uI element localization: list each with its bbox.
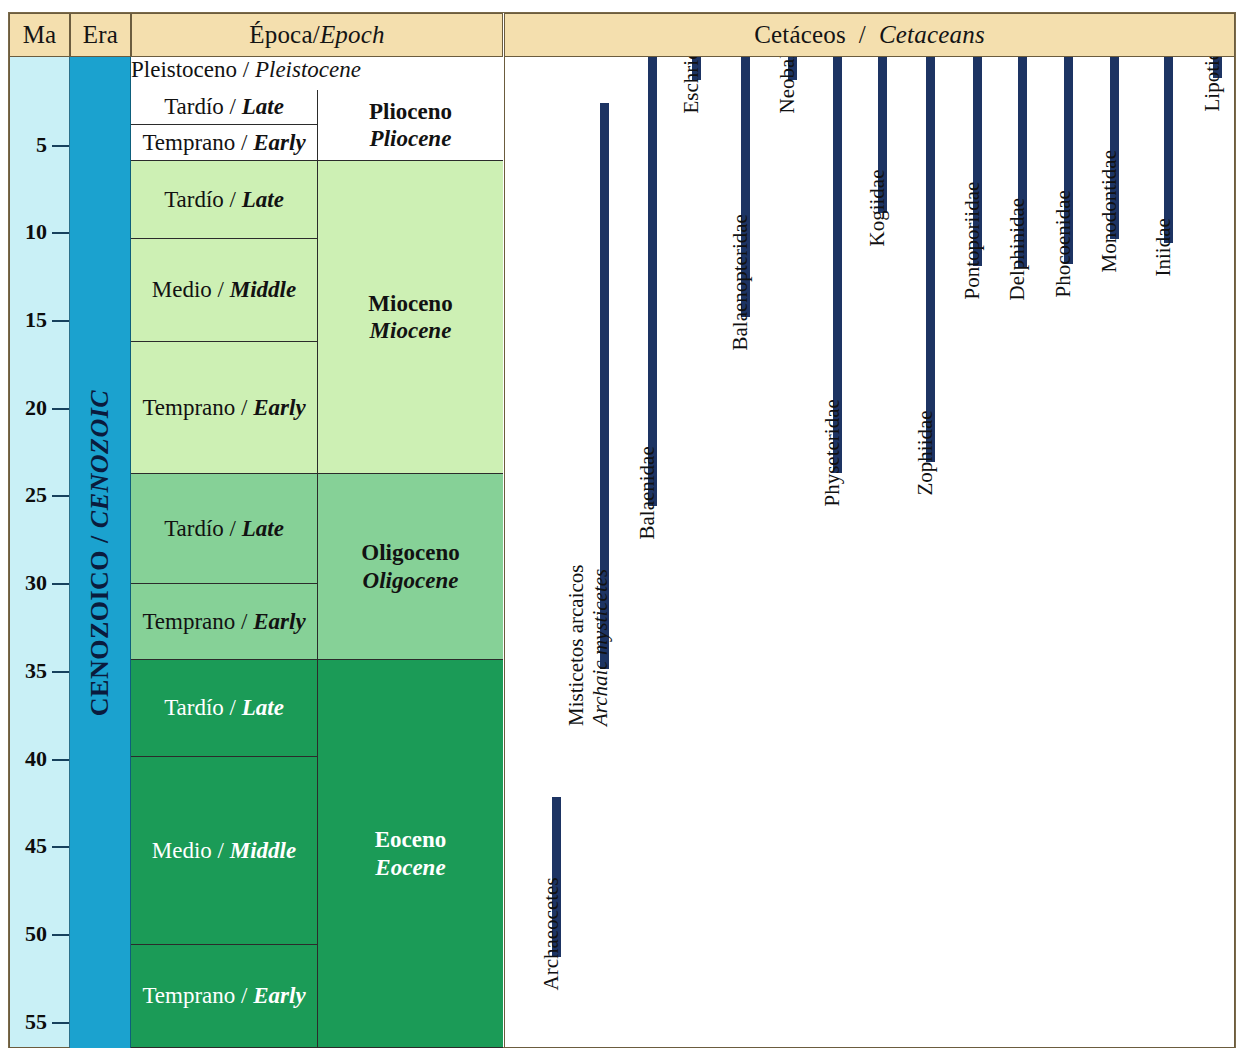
epoch-name-en: Oligocene <box>363 568 459 593</box>
ma-axis-column: 510152025303540455055 <box>9 57 70 1048</box>
taxon-name-es: Misticetos arcaicos <box>564 565 588 727</box>
range-bar-label: Lipotidae <box>1201 57 1225 112</box>
ma-tick-label: 30 <box>25 570 47 596</box>
range-bar <box>926 57 935 462</box>
range-bar <box>1164 57 1173 243</box>
ma-tick <box>52 1022 69 1024</box>
subepoch-name-en: Late <box>242 516 284 541</box>
ma-tick-label: 40 <box>25 746 47 772</box>
taxon-name-es: Iniidae <box>1151 218 1175 276</box>
taxon-name-es: Physeteridae <box>820 399 844 506</box>
subepoch-name-es: Temprano <box>142 130 235 155</box>
subepoch-name-es: Tardío <box>164 94 224 119</box>
taxon-name-es: Archaeocetes <box>539 877 563 990</box>
ma-tick-label: 10 <box>25 219 47 245</box>
ma-tick <box>52 408 69 410</box>
subepoch-name-en: Late <box>242 94 284 119</box>
range-bar <box>648 57 657 506</box>
subepoch-cell: Medio / Middle <box>131 239 317 342</box>
header-era: Era <box>70 13 131 57</box>
header-era-label: Era <box>83 21 118 49</box>
epoch-name-en: Miocene <box>370 318 452 343</box>
subepoch-name-en: Early <box>253 983 305 1008</box>
subepoch-cell: Temprano / Early <box>131 125 317 161</box>
taxon-name-es: Kogiidae <box>865 170 889 247</box>
subepoch-cell: Tardío / Late <box>131 90 317 125</box>
subepoch-name-en: Early <box>253 609 305 634</box>
era-column: CENOZOICO / CENOZOIC <box>70 57 131 1048</box>
epoch-column: PliocenoPlioceneMiocenoMioceneOligocenoO… <box>131 57 503 1048</box>
ma-tick <box>52 846 69 848</box>
subepoch-name-en: Late <box>242 187 284 212</box>
subepoch-name-es: Tardío <box>164 695 224 720</box>
header-epoch: Época / Epoch <box>131 13 503 57</box>
subepoch-cell: Tardío / Late <box>131 161 317 239</box>
cetacean-ranges-panel: ArchaeocetesMisticetos arcaicosArchaic m… <box>504 57 1235 1048</box>
subepoch-name-es: Temprano <box>142 609 235 634</box>
ma-tick-label: 20 <box>25 395 47 421</box>
epoch-name-es: Pleistoceno <box>131 57 237 82</box>
subepoch-name-es: Tardío <box>164 516 224 541</box>
header-cetaceans-es: Cetáceos <box>754 21 846 49</box>
epoch-name-en: Pliocene <box>370 126 452 151</box>
ma-tick-label: 50 <box>25 921 47 947</box>
epoch-name-en: Pleistocene <box>255 57 361 82</box>
ma-tick <box>52 934 69 936</box>
range-bar-label: Kogiidae <box>866 170 890 247</box>
ma-tick-label: 35 <box>25 658 47 684</box>
subepoch-cell: Temprano / Early <box>131 584 317 660</box>
subepoch-cell: Temprano / Early <box>131 342 317 474</box>
taxon-name-es: Neobalaenidae <box>775 57 799 113</box>
range-bar-label: Monodontidae <box>1098 150 1122 272</box>
taxon-name-en: Archaic mysticetes <box>588 565 612 727</box>
subepoch-name-es: Temprano <box>142 395 235 420</box>
header-ma-label: Ma <box>23 21 57 49</box>
range-bar-label: Physeteridae <box>821 399 845 506</box>
ma-tick <box>52 671 69 673</box>
epoch-name-es: Plioceno <box>369 99 452 124</box>
epoch-name-es: Eoceno <box>375 827 447 852</box>
subepoch-name-es: Tardío <box>164 187 224 212</box>
ma-tick-label: 5 <box>36 132 47 158</box>
ma-tick <box>52 320 69 322</box>
subepoch-name-en: Middle <box>230 838 296 863</box>
era-label: CENOZOICO / CENOZOIC <box>85 389 115 715</box>
range-bar-label: Phocoenidae <box>1052 190 1076 297</box>
range-bar-label: Archaeocetes <box>540 877 564 990</box>
taxon-name-es: Monodontidae <box>1097 150 1121 272</box>
taxon-name-es: Lipotidae <box>1200 57 1224 112</box>
subepoch-cell: Tardío / Late <box>131 660 317 757</box>
taxon-name-es: Balaenidae <box>635 446 659 539</box>
subepoch-cell: Tardío / Late <box>131 474 317 584</box>
epoch-cell: MiocenoMiocene <box>317 161 503 474</box>
range-bar-label: Pontoporiidae <box>961 181 985 299</box>
range-bar-label: Balaenidae <box>636 446 660 539</box>
geologic-time-chart: Ma Era Época / Epoch Cetáceos / Cetacean… <box>0 0 1245 1057</box>
epoch-name-es: Oligoceno <box>361 540 459 565</box>
ma-tick <box>52 759 69 761</box>
range-bar-label: Eschrichtiidae <box>680 57 704 113</box>
header-epoch-en: Epoch <box>320 21 385 49</box>
epoch-cell: PliocenoPliocene <box>317 90 503 161</box>
subepoch-name-es: Medio <box>152 277 212 302</box>
header-cetaceans: Cetáceos / Cetaceans <box>504 13 1235 57</box>
epoch-name-en: Eocene <box>375 855 445 880</box>
range-bar-label: Neobalaenidae <box>776 57 800 113</box>
range-bar-label: Misticetos arcaicosArchaic mysticetes <box>565 565 612 727</box>
subepoch-name-en: Early <box>253 130 305 155</box>
subepoch-name-en: Middle <box>230 277 296 302</box>
subepoch-name-en: Late <box>242 695 284 720</box>
header-epoch-es: Época <box>249 21 312 49</box>
range-bar-label: Balaenopteridae <box>729 214 753 350</box>
epoch-cell: OligocenoOligocene <box>317 474 503 660</box>
era-label-es: CENOZOICO <box>85 549 114 715</box>
ma-tick <box>52 495 69 497</box>
header-cetaceans-sep: / <box>846 21 879 49</box>
header-cetaceans-en: Cetaceans <box>879 21 985 49</box>
subepoch-cell: Temprano / Early <box>131 945 317 1048</box>
header-ma: Ma <box>9 13 70 57</box>
range-bar-label: Zophiidae <box>914 411 938 496</box>
subepoch-name-es: Medio <box>152 838 212 863</box>
taxon-name-es: Delphinidae <box>1005 198 1029 301</box>
ma-tick-label: 15 <box>25 307 47 333</box>
